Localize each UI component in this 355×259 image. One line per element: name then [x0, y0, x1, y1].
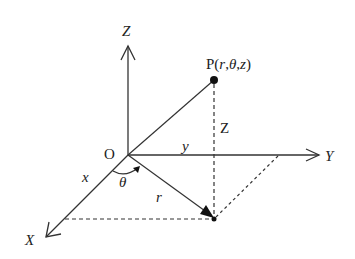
x-segment-label: x: [81, 169, 89, 185]
height-label: Z: [220, 120, 229, 136]
foot-point: [212, 217, 217, 222]
y-axis: [128, 149, 319, 161]
radius-label: r: [156, 189, 162, 205]
origin-label: O: [104, 146, 115, 162]
theta-label: θ: [119, 174, 127, 190]
point-p: [210, 76, 218, 84]
z-axis: [121, 46, 135, 155]
op-line: [128, 80, 214, 155]
y-axis-label: Y: [325, 148, 335, 164]
point-p-label: P(r,θ,z): [206, 56, 251, 73]
z-axis-label: Z: [122, 23, 131, 39]
x-axis-label: X: [24, 232, 35, 248]
radius-vector: [128, 155, 214, 218]
y-projection-dashed: [216, 156, 278, 217]
cylindrical-coordinates-diagram: Z Y X O P(r,θ,z) Z x y r θ: [0, 0, 355, 259]
y-segment-label: y: [180, 138, 189, 154]
theta-arc: [113, 166, 140, 174]
x-axis: [46, 155, 128, 237]
